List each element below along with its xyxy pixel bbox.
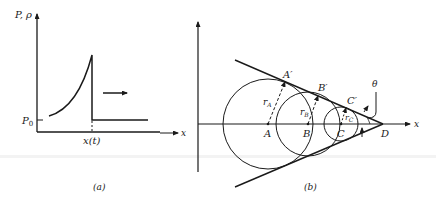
radius-b-label: rB: [300, 107, 309, 118]
tangent-a-label: A′: [282, 69, 293, 80]
figure: P, ρ P0 x(t) (a) x rA rB rC: [0, 0, 436, 209]
front-position-label: x(t): [83, 135, 101, 146]
tangent-c-label: C′: [347, 95, 358, 106]
point-c-label: C: [337, 128, 345, 139]
theta-leader: [368, 92, 376, 118]
theta-label: θ: [372, 79, 378, 89]
panel-a: P, ρ P0 x(t) (a): [14, 9, 160, 192]
pressure-profile: [49, 55, 148, 120]
panel-b-caption: (b): [304, 182, 317, 192]
panel-a-caption: (a): [93, 182, 106, 192]
p0-label: P0: [21, 115, 33, 128]
point-a-label: A: [263, 128, 271, 139]
panel-b: x rA rB rC A B C D A′ B′ C′ θ: [160, 22, 419, 192]
radius-c-label: rC: [345, 113, 354, 123]
point-b-label: B: [302, 128, 310, 139]
radius-a-label: rA: [263, 97, 272, 108]
y-axis-label: P, ρ: [14, 9, 32, 20]
theta-arrow-upper: [364, 106, 368, 112]
point-d-label: D: [380, 128, 389, 139]
x-axis-label: x: [414, 119, 419, 129]
tangent-b-label: B′: [317, 82, 328, 93]
incoming-x-label: x: [181, 128, 186, 138]
